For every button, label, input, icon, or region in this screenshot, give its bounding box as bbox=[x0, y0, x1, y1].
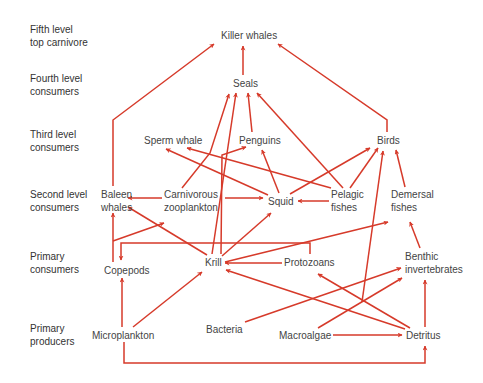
node-baleen-whales: Baleen whales bbox=[101, 188, 132, 214]
node-krill: Krill bbox=[205, 256, 222, 269]
node-microplankton: Microplankton bbox=[92, 329, 154, 342]
node-sperm-whale: Sperm whale bbox=[144, 134, 202, 147]
node-line2: fishes bbox=[331, 201, 364, 214]
level-line2: producers bbox=[30, 335, 74, 348]
node-macroalgae: Macroalgae bbox=[279, 329, 331, 342]
node-line1: Pelagic bbox=[331, 188, 364, 201]
edge-detritus-to-krill bbox=[226, 270, 405, 329]
level-label-second: Second level consumers bbox=[30, 188, 87, 214]
node-line2: fishes bbox=[391, 201, 434, 214]
level-line2: consumers bbox=[30, 263, 79, 276]
level-line2: consumers bbox=[30, 141, 79, 154]
edge-macroalgae-to-benthic-invertebrates bbox=[318, 278, 402, 328]
node-protozoans: Protozoans bbox=[284, 256, 335, 269]
node-carnivorous-zooplankton: Carnivorous zooplankton bbox=[164, 188, 218, 214]
level-line1: Third level bbox=[30, 128, 79, 141]
level-line2: consumers bbox=[30, 201, 87, 214]
node-benthic-invertebrates: Benthic invertebrates bbox=[405, 250, 463, 276]
node-line2: invertebrates bbox=[405, 263, 463, 276]
node-copepods: Copepods bbox=[104, 264, 150, 277]
level-line1: Second level bbox=[30, 188, 87, 201]
level-line2: top carnivore bbox=[30, 36, 88, 49]
edge-microplankton-to-detritus bbox=[124, 342, 425, 363]
edge-pelagic-fishes-to-birds bbox=[350, 148, 378, 188]
node-bacteria: Bacteria bbox=[206, 323, 243, 336]
node-line1: Demersal bbox=[391, 188, 434, 201]
edge-baleen-whales-to-killer-whales bbox=[113, 44, 214, 186]
node-birds: Birds bbox=[377, 134, 400, 147]
edge-squid-to-penguins bbox=[262, 150, 279, 193]
node-detritus: Detritus bbox=[406, 329, 440, 342]
edge-birds-to-killer-whales bbox=[278, 44, 387, 132]
level-label-fourth: Fourth level consumers bbox=[30, 72, 82, 98]
level-line1: Fifth level bbox=[30, 23, 88, 36]
edge-krill-to-squid bbox=[222, 213, 271, 256]
node-line1: Benthic bbox=[405, 250, 463, 263]
level-line1: Fourth level bbox=[30, 72, 82, 85]
node-demersal-fishes: Demersal fishes bbox=[391, 188, 434, 214]
edge-benthic-invertebrates-to-demersal-fishes bbox=[410, 222, 420, 248]
node-line2: whales bbox=[101, 201, 132, 214]
node-penguins: Penguins bbox=[239, 134, 281, 147]
level-label-primary-producers: Primary producers bbox=[30, 322, 74, 348]
node-line1: Carnivorous bbox=[164, 188, 218, 201]
edge-copepods-to-carnivorous-zooplankton bbox=[113, 223, 164, 241]
node-squid: Squid bbox=[268, 195, 294, 208]
edge-demersal-fishes-to-birds bbox=[396, 150, 405, 187]
node-seals: Seals bbox=[233, 77, 258, 90]
node-line2: zooplankton bbox=[164, 201, 218, 214]
node-killer-whales: Killer whales bbox=[221, 29, 277, 42]
level-label-primary-consumers: Primary consumers bbox=[30, 250, 79, 276]
edge-microplankton-to-krill bbox=[133, 272, 202, 327]
level-line1: Primary bbox=[30, 322, 74, 335]
level-line1: Primary bbox=[30, 250, 79, 263]
edge-penguins-to-seals bbox=[248, 93, 252, 132]
food-web-diagram: Fifth level top carnivore Fourth level c… bbox=[0, 0, 483, 383]
node-line1: Baleen bbox=[101, 188, 132, 201]
level-label-third: Third level consumers bbox=[30, 128, 79, 154]
level-line2: consumers bbox=[30, 85, 82, 98]
node-pelagic-fishes: Pelagic fishes bbox=[331, 188, 364, 214]
edge-krill-to-seals bbox=[212, 93, 236, 254]
level-label-fifth: Fifth level top carnivore bbox=[30, 23, 88, 49]
